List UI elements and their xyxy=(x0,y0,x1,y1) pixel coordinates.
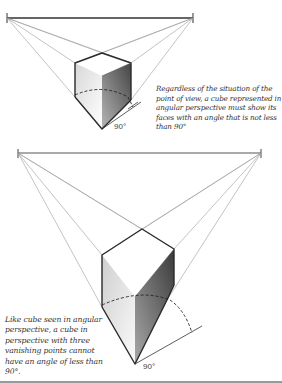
angle-label-top: 90° xyxy=(114,122,126,131)
angle-label-bottom: 90° xyxy=(143,362,155,371)
caption-angular-perspective: Regardless of the situation of the point… xyxy=(156,84,282,132)
caption-three-point-perspective: Like cube seen in angular perspective, a… xyxy=(5,315,105,377)
